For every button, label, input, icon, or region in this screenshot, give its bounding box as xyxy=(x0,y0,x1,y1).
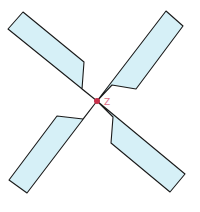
blade-bottom-right xyxy=(97,101,185,192)
windmill-diagram: Z xyxy=(0,0,200,212)
blade-top-right xyxy=(97,11,183,101)
blade-top-left xyxy=(8,12,97,101)
blade-bottom-left xyxy=(9,101,97,193)
center-label: Z xyxy=(104,97,110,107)
rotation-center-point xyxy=(94,98,100,104)
